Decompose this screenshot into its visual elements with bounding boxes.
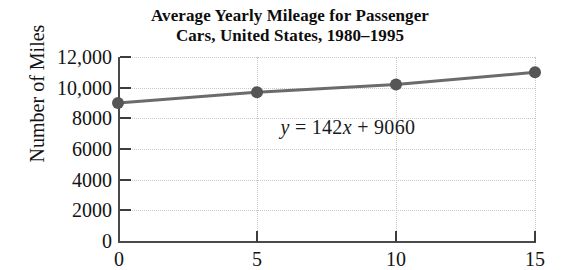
equation-token: x xyxy=(343,116,352,138)
y-tick-label: 8000 xyxy=(0,107,112,130)
equation-token: 142 xyxy=(312,116,343,138)
chart-title-line-1: Average Yearly Mileage for Passenger xyxy=(60,6,520,26)
x-tick-label: 10 xyxy=(386,248,406,270)
equation-token: y xyxy=(280,116,289,138)
data-line xyxy=(118,72,535,103)
data-series-layer xyxy=(118,57,536,243)
regression-equation-annotation: y = 142x + 9060 xyxy=(280,116,415,139)
x-tick-label: 15 xyxy=(525,248,545,270)
chart-title: Average Yearly Mileage for Passenger Car… xyxy=(60,6,520,46)
data-point-marker xyxy=(390,79,402,91)
y-tick-label: 12,000 xyxy=(0,46,112,69)
data-point-marker xyxy=(529,66,541,78)
y-tick-label: 0 xyxy=(0,230,112,253)
data-point-marker xyxy=(251,86,263,98)
equation-token: 9060 xyxy=(374,116,415,138)
chart-title-line-2: Cars, United States, 1980–1995 xyxy=(60,26,520,46)
plot-area xyxy=(118,57,535,242)
y-tick-label: 2000 xyxy=(0,199,112,222)
data-point-marker xyxy=(112,97,124,109)
chart-figure: Average Yearly Mileage for Passenger Car… xyxy=(0,0,570,270)
x-tick-label: 5 xyxy=(252,248,262,270)
y-tick-label: 10,000 xyxy=(0,76,112,99)
x-tick-label: 0 xyxy=(114,248,124,270)
y-tick-label: 4000 xyxy=(0,168,112,191)
y-tick-label: 6000 xyxy=(0,138,112,161)
